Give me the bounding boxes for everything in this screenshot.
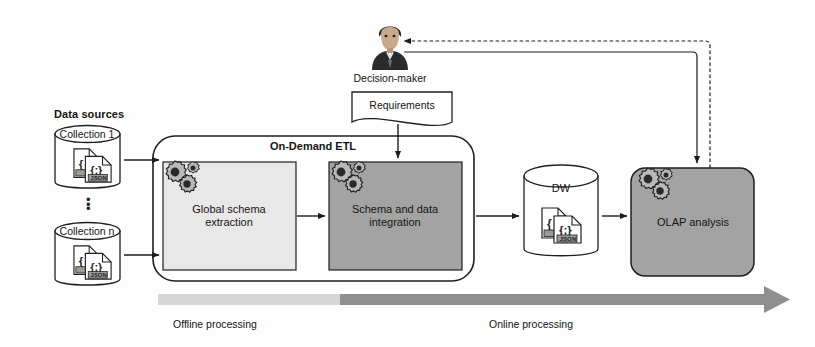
collection-1-label: Collection 1: [60, 128, 115, 140]
collection-n-label: Collection n: [60, 225, 115, 237]
businessperson-avatar-icon: [372, 27, 408, 71]
olap-analysis-label: OLAP analysis: [657, 216, 729, 229]
data-sources-label: Data sources: [54, 108, 124, 121]
stage-1-line-1: Global schema: [192, 203, 265, 215]
dw-label: DW: [552, 182, 570, 195]
stage-2-line-1: Schema and data: [352, 203, 438, 215]
offline-processing-label: Offline processing: [173, 318, 257, 330]
requirements-label: Requirements: [369, 99, 434, 111]
online-processing-bar: [340, 294, 764, 305]
processing-timeline-arrow: [158, 286, 790, 313]
on-demand-etl-title: On-Demand ETL: [270, 140, 356, 153]
offline-processing-bar: [158, 294, 340, 305]
schema-and-data-integration-label: Schema and data integration: [352, 203, 438, 228]
right-arrow-icon: [764, 286, 790, 313]
stage-1-line-2: extraction: [205, 216, 253, 228]
stage-2-line-2: integration: [369, 216, 420, 228]
diagram-canvas: { {;} JSON: [0, 0, 815, 347]
diagram-vector-layer: { {;} JSON: [0, 0, 815, 347]
online-processing-label: Online processing: [489, 318, 573, 330]
global-schema-extraction-label: Global schema extraction: [192, 203, 265, 228]
decision-maker-label: Decision-maker: [354, 72, 427, 84]
collections-ellipsis: •••: [86, 198, 89, 212]
